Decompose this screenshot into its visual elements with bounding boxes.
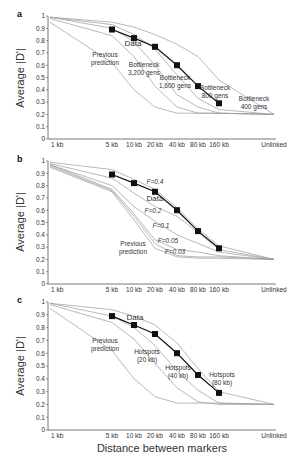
x-tick-label: 5 kb <box>106 141 119 148</box>
x-tick-label: 5 kb <box>106 432 119 439</box>
data-point-marker <box>174 207 180 213</box>
y-tick-label: 0.7 <box>36 337 45 344</box>
curve-annotation: Bottleneck1,600 gens <box>159 74 192 90</box>
curve-annotation: Data <box>125 39 142 48</box>
model-curve <box>50 303 274 404</box>
model-curve <box>50 308 274 404</box>
curve-annotation: Previousprediction <box>91 51 120 67</box>
y-tick-label: 0.8 <box>36 324 45 331</box>
y-tick-label: 0.7 <box>36 49 45 56</box>
data-point-marker <box>174 62 180 68</box>
y-axis-title: Average |D'| <box>14 48 26 108</box>
y-tick-label: 1 <box>41 12 45 19</box>
data-point-marker <box>174 350 180 356</box>
data-point-marker <box>216 100 222 106</box>
data-point-marker <box>195 372 201 378</box>
curve-annotation: F=0.4 <box>147 178 164 185</box>
y-tick-label: 0.3 <box>36 243 45 250</box>
data-point-marker <box>109 172 115 178</box>
y-tick-label: 0.5 <box>36 362 45 369</box>
data-point-marker <box>131 180 137 186</box>
y-tick-label: 0.2 <box>36 256 45 263</box>
curve-annotation: Hotspots(20 kb) <box>134 348 160 364</box>
x-tick-label: Unlinked <box>261 286 287 293</box>
curve-annotation: Previousprediction <box>119 240 148 256</box>
x-tick-label: 1 kb <box>51 286 64 293</box>
y-tick-label: 0.8 <box>36 182 45 189</box>
x-tick-label: 40 kb <box>169 432 185 439</box>
x-tick-label: 40 kb <box>169 286 185 293</box>
model-curve <box>50 305 274 405</box>
y-tick-label: 0.9 <box>36 311 45 318</box>
panel-letter: b <box>17 154 23 164</box>
panel-c: c00.10.20.30.40.50.60.70.80.911 kb5 kb10… <box>14 295 287 439</box>
x-tick-label: 20 kb <box>147 286 163 293</box>
y-tick-label: 0.9 <box>36 170 45 177</box>
y-tick-label: 1 <box>41 157 45 164</box>
y-tick-label: 0.1 <box>36 268 45 275</box>
curve-annotation: F=0.1 <box>153 222 170 229</box>
panels-group: a00.10.20.30.40.50.60.70.80.911 kb5 kb10… <box>14 9 287 439</box>
curve-annotation: Previousprediction <box>91 337 120 353</box>
y-tick-label: 0.4 <box>36 231 45 238</box>
x-tick-label: 5 kb <box>106 286 119 293</box>
curve-annotation: Bottleneck3,200 gens <box>128 61 161 77</box>
x-tick-label: 10 kb <box>126 432 142 439</box>
curve-annotation: Bottleneck800 gens <box>200 84 231 100</box>
x-tick-label: 80 kb <box>190 286 206 293</box>
y-tick-label: 0.3 <box>36 98 45 105</box>
x-tick-label: 1 kb <box>51 141 64 148</box>
data-point-marker <box>195 228 201 234</box>
data-point-marker <box>109 313 115 319</box>
x-tick-label: 20 kb <box>147 432 163 439</box>
data-point-marker <box>131 322 137 328</box>
y-tick-label: 0.6 <box>36 62 45 69</box>
curve-annotation: Data <box>147 194 164 203</box>
curve-annotation: F=0.03 <box>165 248 186 255</box>
ld-decay-figure: a00.10.20.30.40.50.60.70.80.911 kb5 kb10… <box>0 0 302 465</box>
y-tick-label: 0.5 <box>36 74 45 81</box>
model-curve <box>50 162 274 259</box>
panel-b: b00.10.20.30.40.50.60.70.80.911 kb5 kb10… <box>14 154 287 293</box>
x-tick-label: 40 kb <box>169 141 185 148</box>
x-tick-label: 10 kb <box>126 141 142 148</box>
y-tick-label: 0.6 <box>36 207 45 214</box>
panel-letter: a <box>17 9 23 19</box>
x-tick-label: 80 kb <box>190 432 206 439</box>
y-tick-label: 0 <box>41 280 45 287</box>
curve-annotation: F=0.05 <box>158 237 179 244</box>
x-tick-label: 20 kb <box>147 141 163 148</box>
x-tick-label: 160 kb <box>209 286 229 293</box>
y-tick-label: 0.5 <box>36 219 45 226</box>
curve-annotation: Hotspots(40 kb) <box>165 364 191 380</box>
y-tick-label: 0.9 <box>36 25 45 32</box>
x-tick-label: 1 kb <box>51 432 64 439</box>
y-tick-label: 1 <box>41 298 45 305</box>
data-point-marker <box>109 27 115 33</box>
panel-a: a00.10.20.30.40.50.60.70.80.911 kb5 kb10… <box>14 9 287 148</box>
y-tick-label: 0.7 <box>36 194 45 201</box>
x-axis-title: Distance between markers <box>97 442 228 454</box>
y-tick-label: 0.2 <box>36 401 45 408</box>
data-point-marker <box>152 44 158 50</box>
curve-annotation: Hotspots(80 kb) <box>209 371 235 387</box>
y-tick-label: 0.3 <box>36 388 45 395</box>
y-tick-label: 0.8 <box>36 37 45 44</box>
y-tick-label: 0 <box>41 426 45 433</box>
data-point-marker <box>152 331 158 337</box>
panel-letter: c <box>17 295 22 305</box>
x-tick-label: 10 kb <box>126 286 142 293</box>
y-tick-label: 0.6 <box>36 350 45 357</box>
x-tick-label: 80 kb <box>190 141 206 148</box>
x-tick-label: Unlinked <box>261 141 287 148</box>
y-tick-label: 0.4 <box>36 86 45 93</box>
y-tick-label: 0.1 <box>36 414 45 421</box>
data-point-marker <box>216 390 222 396</box>
x-tick-label: 160 kb <box>209 432 229 439</box>
curve-annotation: Data <box>127 313 144 322</box>
data-line <box>112 316 219 393</box>
y-tick-label: 0 <box>41 135 45 142</box>
y-tick-label: 0.4 <box>36 375 45 382</box>
curve-annotation: Bottleneck400 gens <box>239 95 270 111</box>
y-tick-label: 0.2 <box>36 111 45 118</box>
